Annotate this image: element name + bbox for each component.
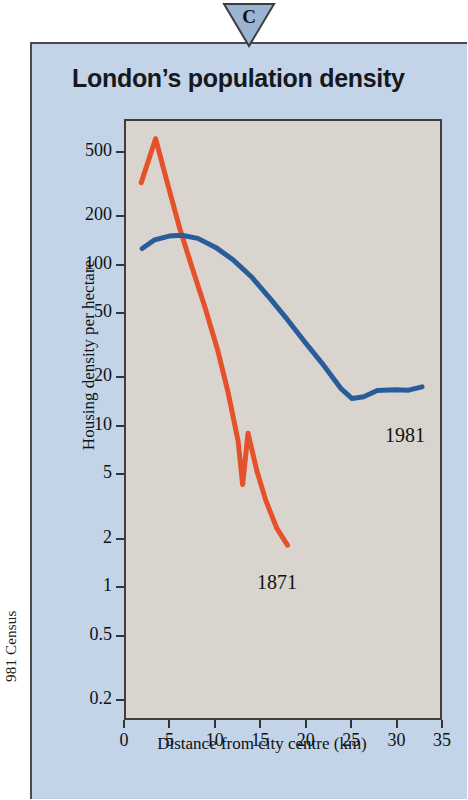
x-tick-mark bbox=[168, 720, 170, 728]
x-tick-label: 35 bbox=[422, 730, 462, 751]
y-tick-mark bbox=[116, 586, 124, 588]
x-tick-mark bbox=[123, 720, 125, 728]
x-tick-label: 15 bbox=[240, 730, 280, 751]
x-tick-label: 5 bbox=[149, 730, 189, 751]
y-tick-label: 2 bbox=[50, 530, 112, 544]
plot-canvas bbox=[126, 121, 440, 718]
series-line-1871 bbox=[141, 139, 287, 545]
x-tick-label: 10 bbox=[195, 730, 235, 751]
page-title: London’s population density bbox=[72, 64, 405, 93]
y-tick-label: 200 bbox=[50, 207, 112, 221]
source-note: 981 Census bbox=[0, 542, 22, 682]
y-tick-mark bbox=[116, 312, 124, 314]
y-tick-label: 100 bbox=[50, 256, 112, 270]
y-tick-mark bbox=[116, 425, 124, 427]
y-tick-label: 0.2 bbox=[50, 691, 112, 705]
y-tick-mark bbox=[116, 215, 124, 217]
section-badge: C bbox=[222, 2, 276, 48]
section-badge-letter: C bbox=[222, 6, 276, 28]
y-tick-label: 10 bbox=[50, 417, 112, 431]
y-tick-label: 50 bbox=[50, 304, 112, 318]
series-label-1871: 1871 bbox=[257, 571, 297, 594]
x-tick-mark bbox=[350, 720, 352, 728]
y-tick-mark bbox=[116, 699, 124, 701]
y-tick-label: 20 bbox=[50, 368, 112, 382]
x-tick-mark bbox=[214, 720, 216, 728]
x-tick-mark bbox=[259, 720, 261, 728]
y-tick-mark bbox=[116, 635, 124, 637]
y-tick-mark bbox=[116, 376, 124, 378]
y-tick-label: 5 bbox=[50, 465, 112, 479]
chart-panel: London’s population density Housing dens… bbox=[30, 42, 467, 799]
y-tick-mark bbox=[116, 538, 124, 540]
x-tick-mark bbox=[441, 720, 443, 728]
x-tick-label: 25 bbox=[331, 730, 371, 751]
y-tick-label: 1 bbox=[50, 578, 112, 592]
series-line-1981 bbox=[142, 235, 422, 398]
y-axis-title: Housing density per hectare bbox=[78, 240, 100, 470]
x-tick-label: 0 bbox=[104, 730, 144, 751]
y-tick-mark bbox=[116, 473, 124, 475]
series-label-1981: 1981 bbox=[385, 424, 425, 447]
plot-area bbox=[124, 119, 442, 720]
x-tick-label: 20 bbox=[286, 730, 326, 751]
x-tick-mark bbox=[396, 720, 398, 728]
y-tick-mark bbox=[116, 264, 124, 266]
y-tick-label: 0.5 bbox=[50, 627, 112, 641]
x-tick-mark bbox=[305, 720, 307, 728]
y-tick-label: 500 bbox=[50, 143, 112, 157]
x-tick-label: 30 bbox=[377, 730, 417, 751]
y-tick-mark bbox=[116, 151, 124, 153]
